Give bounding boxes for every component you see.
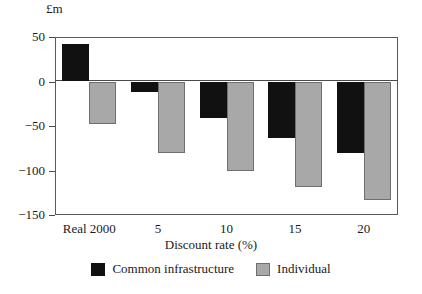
bar-1-0 — [89, 82, 116, 125]
legend-item-label: Individual — [277, 262, 330, 276]
bar-1-2 — [227, 82, 254, 171]
bar-0-4 — [337, 82, 364, 153]
y-axis-tick-label: −150 — [0, 208, 45, 221]
x-axis-tick-label: 15 — [289, 222, 302, 236]
bar-1-4 — [364, 82, 391, 200]
x-axis-tick-label: 10 — [220, 222, 233, 236]
black-swatch-icon — [91, 263, 105, 276]
x-axis-tick-label: 20 — [357, 222, 370, 236]
x-axis-tick-label: Real 2000 — [63, 222, 116, 236]
gray-swatch-icon — [256, 263, 270, 276]
y-axis-tick-label: 0 — [0, 75, 45, 88]
chart-legend: Common infrastructureIndividual — [0, 262, 422, 276]
bar-0-1 — [131, 82, 158, 93]
bar-1-3 — [295, 82, 322, 187]
legend-item: Common infrastructure — [91, 262, 234, 276]
x-axis-title: Discount rate (%) — [0, 238, 422, 252]
bar-0-3 — [268, 82, 295, 138]
y-axis-tick-label: 50 — [0, 30, 45, 43]
y-axis-tick — [49, 215, 55, 216]
legend-item-label: Common infrastructure — [112, 262, 234, 276]
y-axis-tick-label: −100 — [0, 164, 45, 177]
bar-chart: £m 500−50−100−150 Real 20005101520 Disco… — [0, 0, 422, 294]
bar-1-1 — [158, 82, 185, 153]
legend-item: Individual — [256, 262, 330, 276]
bars-layer — [55, 37, 398, 215]
bar-0-0 — [62, 44, 89, 81]
y-axis-tick-label: −50 — [0, 119, 45, 132]
y-axis-unit-label: £m — [46, 2, 63, 16]
bar-0-2 — [200, 82, 227, 118]
x-axis-tick-label: 5 — [155, 222, 162, 236]
